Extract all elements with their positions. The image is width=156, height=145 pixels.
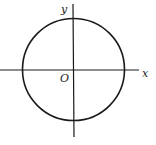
x-axis-label: x — [142, 67, 149, 80]
origin-label: O — [60, 72, 69, 85]
background — [0, 0, 156, 145]
y-axis-label: y — [60, 3, 68, 16]
circle-diagram: x y O — [0, 0, 156, 145]
